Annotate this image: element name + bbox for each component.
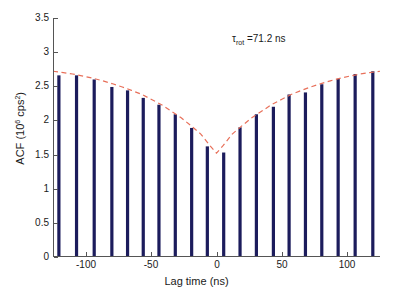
y-tick-mark (54, 223, 58, 224)
y-axis-title-prefix: ACF (10 (14, 124, 26, 165)
acf-bar (337, 79, 340, 257)
tau-value-text: =71.2 ns (244, 33, 285, 44)
y-tick-mark (54, 52, 58, 53)
y-tick-label: 2 (43, 115, 49, 125)
y-tick-mark (54, 120, 58, 121)
y-tick-mark (54, 189, 58, 190)
y-tick-label: 1.5 (35, 150, 49, 160)
y-tick-label: 3 (43, 47, 49, 57)
acf-bar (190, 128, 193, 257)
bar-series (57, 71, 374, 257)
acf-bar (320, 84, 323, 257)
y-axis-title-exponent-2: 2 (14, 96, 21, 100)
y-axis-title: ACF (106 cps2) (14, 38, 27, 218)
y-tick-label: 0.5 (35, 218, 49, 228)
y-tick-label: 0 (43, 252, 49, 262)
acf-bar (75, 75, 78, 257)
y-tick-mark (54, 155, 58, 156)
acf-bar (93, 79, 96, 257)
acf-bar (157, 105, 160, 257)
acf-bar (126, 90, 129, 257)
acf-bar (142, 98, 145, 257)
x-tick-label: 100 (339, 259, 356, 270)
y-axis-title-suffix: ) (14, 92, 26, 96)
acf-bar (287, 94, 290, 257)
y-axis-title-mid: cps (14, 100, 26, 120)
acf-bar (371, 71, 374, 257)
acf-bar (238, 127, 241, 257)
acf-chart-figure: 00.511.522.533.5 -100-50050100 Lag time … (0, 0, 393, 301)
acf-bar (174, 114, 177, 257)
acf-bar (272, 107, 275, 257)
x-tick-mark (86, 252, 87, 257)
plot-canvas (53, 18, 380, 257)
x-tick-mark (217, 252, 218, 257)
y-tick-label: 2.5 (35, 81, 49, 91)
y-axis-line (53, 18, 54, 257)
acf-bar (206, 146, 209, 257)
acf-bar (354, 74, 357, 257)
plot-area (53, 18, 380, 257)
y-tick-label: 3.5 (35, 13, 49, 23)
exponential-fit-curve (53, 71, 380, 153)
x-tick-label: 0 (214, 259, 220, 270)
y-axis-title-exponent-6: 6 (14, 120, 21, 124)
y-tick-mark (54, 18, 58, 19)
tau-rot-annotation: τrot =71.2 ns (232, 33, 286, 46)
x-tick-label: 50 (276, 259, 287, 270)
x-tick-mark (151, 252, 152, 257)
y-tick-mark (54, 257, 58, 258)
x-tick-mark (347, 252, 348, 257)
x-axis-title: Lag time (ns) (0, 275, 393, 287)
y-tick-mark (54, 86, 58, 87)
acf-bar (222, 153, 225, 257)
x-tick-label: -50 (144, 259, 158, 270)
acf-bar (57, 75, 60, 257)
tau-subscript: rot (236, 39, 244, 46)
acf-bar (255, 114, 258, 257)
y-tick-label: 1 (43, 184, 49, 194)
x-tick-label: -100 (76, 259, 96, 270)
acf-bar (110, 87, 113, 257)
acf-bar (304, 92, 307, 257)
x-tick-mark (282, 252, 283, 257)
